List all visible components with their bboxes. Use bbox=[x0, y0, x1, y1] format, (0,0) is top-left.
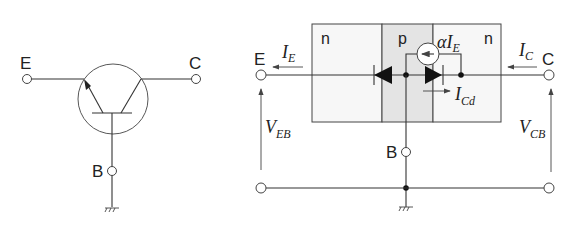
collector-label: C bbox=[542, 50, 554, 69]
collector-terminal[interactable] bbox=[544, 70, 554, 80]
base-terminal[interactable] bbox=[402, 148, 411, 157]
collector-terminal[interactable] bbox=[192, 75, 201, 84]
emitter-current-label: IE bbox=[281, 42, 296, 65]
ground-icon bbox=[105, 208, 119, 212]
transistor-symbol: E C B bbox=[20, 54, 201, 212]
common-left-terminal[interactable] bbox=[256, 183, 266, 193]
emitter-terminal[interactable] bbox=[256, 70, 266, 80]
ebers-moll-model: n p n bbox=[254, 24, 554, 211]
base-label: B bbox=[386, 143, 397, 162]
base-terminal[interactable] bbox=[108, 167, 117, 176]
emitter-terminal[interactable] bbox=[23, 75, 32, 84]
bjt-diagram: E C B n p n bbox=[0, 0, 574, 228]
veb-label: VEB bbox=[265, 117, 291, 141]
junction-dot bbox=[458, 72, 464, 78]
emitter-label: E bbox=[20, 54, 31, 73]
vcb-label: VCB bbox=[519, 117, 546, 141]
emitter-label: E bbox=[254, 50, 265, 69]
collector-current-label: IC bbox=[518, 40, 534, 63]
collector-lead bbox=[121, 79, 141, 113]
region-label-n-left: n bbox=[321, 30, 330, 47]
base-label: B bbox=[92, 162, 103, 181]
collector-label: C bbox=[189, 54, 201, 73]
region-label-p: p bbox=[398, 30, 407, 47]
transistor-envelope bbox=[78, 64, 148, 134]
common-right-terminal[interactable] bbox=[544, 183, 554, 193]
region-label-n-right: n bbox=[484, 30, 493, 47]
ground-icon bbox=[399, 207, 413, 211]
